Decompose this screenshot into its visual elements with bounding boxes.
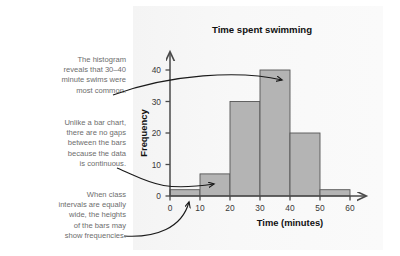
bar-20-30 <box>230 102 260 197</box>
y-tick-label: 40 <box>152 65 162 75</box>
chart-svg: Time spent swimming 0 10 20 30 40 <box>0 0 400 256</box>
connector-equal-widths <box>124 202 189 236</box>
figure-root: The histogram reveals that 30–40 minute … <box>0 0 400 256</box>
bar-50-60 <box>320 190 350 196</box>
y-tick-label: 0 <box>156 191 161 201</box>
x-tick-label: 40 <box>285 203 295 213</box>
bar-0-10 <box>170 190 200 196</box>
x-tick-label: 20 <box>225 203 235 213</box>
bar-40-50 <box>290 133 320 196</box>
histogram-bars <box>170 70 350 196</box>
bar-30-40 <box>260 70 290 196</box>
x-tick-label: 30 <box>255 203 265 213</box>
connector-no-gaps <box>117 168 214 187</box>
x-tick-label: 0 <box>168 203 173 213</box>
x-tick-label: 50 <box>315 203 325 213</box>
chart-title: Time spent swimming <box>212 24 312 35</box>
y-tick-label: 30 <box>152 97 162 107</box>
connector-most-common <box>113 75 282 95</box>
x-tick-label: 60 <box>345 203 355 213</box>
y-tick-label: 20 <box>152 128 162 138</box>
x-tick-label: 10 <box>195 203 205 213</box>
y-axis-label: Frequency <box>138 109 149 157</box>
x-axis-label: Time (minutes) <box>257 217 324 228</box>
y-ticks: 0 10 20 30 40 <box>152 65 170 201</box>
y-tick-label: 10 <box>152 160 162 170</box>
x-ticks: 0 10 20 30 40 50 60 <box>168 196 355 213</box>
